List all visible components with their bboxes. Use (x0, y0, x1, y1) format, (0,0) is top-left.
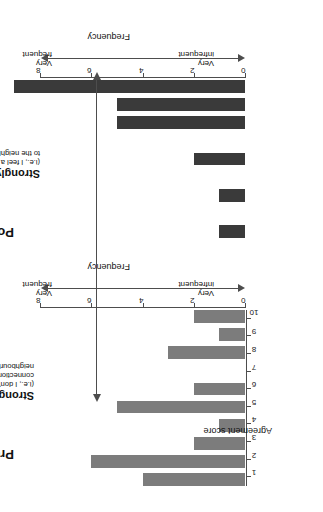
agreement-direction-arrow-line (96, 80, 97, 394)
panel-post-internship: Post-internship 02468 Very infrequent Ve… (0, 54, 323, 264)
rotated-figure: Pre-internship 02468 12345678910 Agreeme… (0, 0, 323, 512)
agree-line2: to the neighborhood) (0, 149, 40, 158)
x-tick-label-6: 6 (252, 380, 256, 389)
bar-10 (194, 310, 245, 323)
x-tick-label-2: 2 (252, 450, 256, 459)
bar-3 (194, 437, 245, 450)
frequency-high-line2: frequent (23, 280, 52, 289)
bar-6 (194, 153, 245, 166)
bar-5 (117, 401, 245, 414)
x-tick-7 (246, 371, 251, 372)
frequency-low-line1-post: Very (198, 59, 214, 68)
bar-8 (117, 116, 245, 129)
frequency-high-label-post: Very frequent (0, 50, 52, 68)
disagree-line1: (i.e., I don't feel a (0, 380, 34, 389)
chart-title-pre: Pre-internship (0, 447, 14, 462)
x-tick-1 (246, 476, 251, 477)
y-tick-label-4: 4 (139, 66, 143, 75)
frequency-arrow-down-pre (238, 284, 245, 292)
annotation-strongly-disagree: Strongly disagree (i.e., I don't feel a … (0, 362, 34, 402)
bar-2 (91, 455, 245, 468)
figure-canvas: Pre-internship 02468 12345678910 Agreeme… (0, 0, 323, 512)
y-tick-label-0: 0 (241, 296, 245, 305)
agree-headline: Strongly agree (0, 167, 40, 180)
disagree-headline: Strongly disagree (0, 389, 34, 402)
frequency-low-line2: infrequent (178, 280, 214, 289)
frequency-high-line1-post: Very (36, 59, 52, 68)
frequency-high-line1: Very (36, 289, 52, 298)
x-tick-label-8: 8 (252, 345, 256, 354)
bar-1 (143, 473, 246, 486)
x-tick-4 (246, 423, 251, 424)
bar-series-post (40, 80, 245, 256)
y-tick-label-6: 6 (87, 296, 91, 305)
frequency-low-label-post: Very infrequent (154, 50, 214, 68)
annotation-strongly-agree: Strongly agree (i.e., I feel a connectio… (0, 149, 40, 180)
panel-pre-internship: Pre-internship 02468 12345678910 Agreeme… (0, 284, 323, 494)
bar-4 (219, 189, 245, 202)
x-axis-title: Agreement score (203, 426, 272, 436)
frequency-arrow-down-post (238, 54, 245, 62)
frequency-low-line2-post: infrequent (178, 50, 214, 59)
plot-area-pre (40, 310, 245, 486)
x-tick-10 (246, 318, 251, 319)
y-tick-label-4: 4 (139, 296, 143, 305)
disagree-line3: neighbourhood) (0, 362, 34, 371)
x-tick-label-4: 4 (252, 415, 256, 424)
bar-6 (194, 383, 245, 396)
chart-title-post: Post-internship (0, 225, 14, 240)
y-tick-label-6: 6 (87, 66, 91, 75)
bar-series-pre (40, 310, 245, 486)
x-tick-9 (246, 335, 251, 336)
x-tick-5 (246, 406, 251, 407)
x-tick-label-1: 1 (252, 468, 256, 477)
x-tick-label-9: 9 (252, 327, 256, 336)
x-tick-label-10: 10 (250, 307, 259, 316)
agreement-arrow-left (93, 394, 101, 402)
bar-2 (219, 225, 245, 238)
plot-area-post (40, 80, 245, 256)
agree-line1: (i.e., I feel a connection (0, 158, 40, 167)
frequency-high-label-pre: Very frequent (0, 280, 52, 298)
bar-8 (168, 346, 245, 359)
frequency-low-label-pre: Very infrequent (154, 280, 214, 298)
bar-10 (14, 80, 245, 93)
x-tick-6 (246, 388, 251, 389)
bar-9 (117, 98, 245, 111)
x-tick-2 (246, 459, 251, 460)
x-tick-8 (246, 353, 251, 354)
frequency-low-line1: Very (198, 289, 214, 298)
agreement-arrow-right (93, 72, 101, 80)
x-tick-3 (246, 441, 251, 442)
x-tick-label-7: 7 (252, 362, 256, 371)
disagree-line2: connection to the (0, 371, 34, 380)
bar-9 (219, 328, 245, 341)
frequency-high-line2-post: frequent (23, 50, 52, 59)
y-axis-title-post: Frequency (87, 32, 130, 42)
y-tick-label-0: 0 (241, 66, 245, 75)
x-tick-label-5: 5 (252, 398, 256, 407)
